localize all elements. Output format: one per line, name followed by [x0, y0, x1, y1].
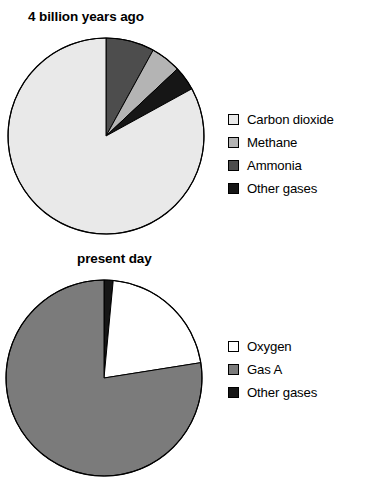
legend-swatch-other-gases-bottom — [228, 387, 239, 398]
legend-label-carbon-dioxide: Carbon dioxide — [247, 113, 334, 126]
legend-item-other-gases-top[interactable]: Other gases — [228, 177, 334, 200]
legend-label-other-gases-top: Other gases — [247, 182, 317, 195]
pie-svg-bottom — [4, 278, 204, 478]
legend-swatch-methane — [228, 137, 239, 148]
chart-title-top: 4 billion years ago — [28, 9, 144, 24]
legend-item-oxygen[interactable]: Oxygen — [228, 335, 317, 358]
legend-item-ammonia[interactable]: Ammonia — [228, 154, 334, 177]
pie-slice-oxygen[interactable] — [104, 280, 201, 378]
legend-item-other-gases-bottom[interactable]: Other gases — [228, 381, 317, 404]
legend-swatch-gas-a — [228, 364, 239, 375]
pie-chart-bottom — [4, 278, 204, 478]
legend-label-ammonia: Ammonia — [247, 159, 302, 172]
pie-svg-top — [6, 36, 206, 236]
legend-item-carbon-dioxide[interactable]: Carbon dioxide — [228, 108, 334, 131]
pie-chart-top — [6, 36, 206, 236]
legend-label-other-gases-bottom: Other gases — [247, 386, 317, 399]
legend-label-methane: Methane — [247, 136, 297, 149]
chart-title-bottom: present day — [77, 251, 152, 266]
legend-item-methane[interactable]: Methane — [228, 131, 334, 154]
legend-top: Carbon dioxide Methane Ammonia Other gas… — [228, 108, 334, 200]
legend-item-gas-a[interactable]: Gas A — [228, 358, 317, 381]
legend-label-oxygen: Oxygen — [247, 340, 292, 353]
legend-swatch-carbon-dioxide — [228, 114, 239, 125]
legend-swatch-other-gases-top — [228, 183, 239, 194]
legend-swatch-ammonia — [228, 160, 239, 171]
legend-swatch-oxygen — [228, 341, 239, 352]
chart-present-day: present day Oxygen Gas A Other gases — [0, 245, 371, 489]
legend-bottom: Oxygen Gas A Other gases — [228, 335, 317, 404]
legend-label-gas-a: Gas A — [247, 363, 282, 376]
chart-4-billion-years-ago: 4 billion years ago Carbon dioxide Metha… — [0, 0, 371, 245]
